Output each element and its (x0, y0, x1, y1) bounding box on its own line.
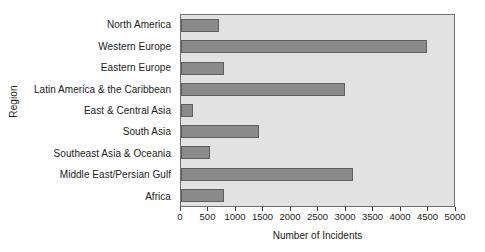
x-tick-label: 4500 (417, 211, 438, 222)
bar (181, 19, 219, 32)
bar-slot (181, 79, 454, 100)
x-tick-label: 2000 (279, 211, 300, 222)
bars-layer (181, 15, 454, 206)
x-tick-label: 0 (177, 211, 182, 222)
bar-slot (181, 164, 454, 185)
x-tick-label: 1500 (252, 211, 273, 222)
category-axis-labels: North AmericaWestern EuropeEastern Europ… (0, 14, 176, 207)
x-axis-tick-labels: 0500100015002000250030003500400045005000 (180, 211, 455, 225)
bar (181, 104, 193, 117)
bar (181, 62, 224, 75)
category-label: Africa (0, 186, 176, 207)
x-tick-label: 4000 (389, 211, 410, 222)
category-label: Middle East/Persian Gulf (0, 164, 176, 185)
bar (181, 146, 210, 159)
bar-slot (181, 15, 454, 36)
bar-slot (181, 36, 454, 57)
bar-slot (181, 121, 454, 142)
x-axis-title: Number of Incidents (180, 230, 455, 241)
x-tick-label: 500 (200, 211, 216, 222)
category-label: East & Central Asia (0, 100, 176, 121)
category-label: Western Europe (0, 35, 176, 56)
bar-slot (181, 57, 454, 78)
x-tick-label: 5000 (444, 211, 465, 222)
bar-chart-figure: Region North AmericaWestern EuropeEaster… (0, 0, 485, 252)
bar (181, 125, 259, 138)
category-label: Latin America & the Caribbean (0, 78, 176, 99)
x-tick-label: 3000 (334, 211, 355, 222)
x-tick-label: 2500 (307, 211, 328, 222)
category-label: Southeast Asia & Oceania (0, 143, 176, 164)
bar-slot (181, 142, 454, 163)
x-tick-label: 1000 (224, 211, 245, 222)
bar (181, 189, 224, 202)
plot-area (180, 14, 455, 207)
category-label: Eastern Europe (0, 57, 176, 78)
bar (181, 40, 427, 53)
bar-slot (181, 185, 454, 206)
bar (181, 83, 345, 96)
category-label: South Asia (0, 121, 176, 142)
x-tick-label: 3500 (362, 211, 383, 222)
bar-slot (181, 100, 454, 121)
bar (181, 168, 353, 181)
category-label: North America (0, 14, 176, 35)
